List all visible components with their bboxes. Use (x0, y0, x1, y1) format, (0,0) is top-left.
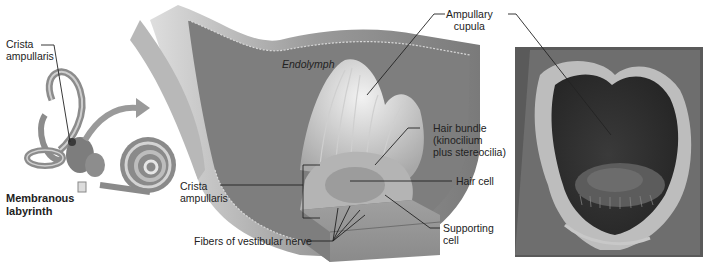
label-endolymph: Endolymph (282, 58, 335, 70)
label-ampullary-cupula: Ampullary cupula (446, 8, 493, 32)
label-hair-cell: Hair cell (456, 175, 494, 187)
label-membranous-labyrinth: Membranous labyrinth (6, 192, 74, 218)
sem-micrograph (515, 47, 703, 257)
label-crista-ampullaris-center: Crista ampullaris (180, 180, 228, 204)
label-supporting-cell: Supporting cell (443, 222, 494, 246)
label-crista-ampullaris-left: Crista ampullaris (6, 38, 54, 62)
label-hair-bundle: Hair bundle (kinocilium plus stereocilia… (433, 122, 506, 158)
figure-stage: Crista ampullaris Membranous labyrinth E… (0, 0, 706, 267)
ampulla-cutaway-illustration (130, 5, 480, 262)
diagram-artwork (0, 0, 706, 267)
label-fibers-vestibular-nerve: Fibers of vestibular nerve (194, 235, 312, 247)
